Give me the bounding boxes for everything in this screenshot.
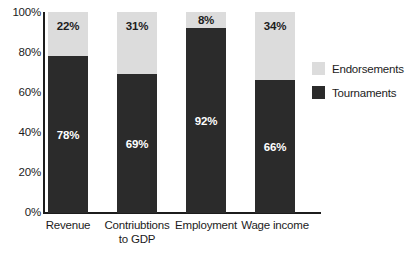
y-tick-label-40: 40%: [1, 127, 41, 138]
bar-stack: 34% 66%: [255, 12, 295, 213]
bar-group-employment[interactable]: 8% 92%: [186, 12, 226, 213]
chart-legend: Endorsements Tournaments: [312, 62, 406, 110]
bar-stack: 22% 78%: [48, 12, 88, 213]
legend-label: Endorsements: [332, 63, 404, 75]
y-tick-label-20: 20%: [1, 167, 41, 178]
plot-area: 22% 78% 31% 69% 8%: [45, 12, 321, 213]
category-label-wage-income: Wage income: [227, 218, 323, 232]
legend-item-endorsements[interactable]: Endorsements: [312, 62, 406, 75]
y-tick-label-60: 60%: [1, 87, 41, 98]
stacked-bar-chart: 100% 80% 60% 40% 20% 0% 22% 78% 31%: [0, 0, 406, 261]
segment-endorsements[interactable]: 31%: [117, 12, 157, 74]
segment-value-label: 8%: [198, 15, 214, 26]
segment-value-label: 92%: [195, 115, 217, 126]
segment-value-label: 31%: [126, 21, 148, 32]
category-label-line: Wage income: [227, 218, 323, 232]
segment-tournaments[interactable]: 66%: [255, 80, 295, 213]
bar-group-contributions-to-gdp[interactable]: 31% 69%: [117, 12, 157, 213]
legend-label: Tournaments: [332, 87, 396, 99]
bar-stack: 8% 92%: [186, 12, 226, 213]
bar-group-wage-income[interactable]: 34% 66%: [255, 12, 295, 213]
legend-swatch-icon: [312, 86, 325, 99]
segment-tournaments[interactable]: 78%: [48, 56, 88, 213]
segment-endorsements[interactable]: 34%: [255, 12, 295, 80]
y-tick-label-0: 0%: [1, 207, 41, 218]
segment-value-label: 66%: [264, 141, 286, 152]
bar-stack: 31% 69%: [117, 12, 157, 213]
segment-endorsements[interactable]: 22%: [48, 12, 88, 56]
y-tick-label-100: 100%: [1, 7, 41, 18]
segment-endorsements[interactable]: 8%: [186, 12, 226, 28]
segment-value-label: 22%: [57, 21, 79, 32]
bar-group-revenue[interactable]: 22% 78%: [48, 12, 88, 213]
category-label-line: to GDP: [89, 232, 185, 246]
y-tick-label-80: 80%: [1, 47, 41, 58]
segment-value-label: 34%: [264, 21, 286, 32]
x-axis-category-labels: Revenue Contriubtions to GDP Employment …: [45, 218, 321, 261]
segment-tournaments[interactable]: 69%: [117, 74, 157, 213]
segment-tournaments[interactable]: 92%: [186, 28, 226, 213]
legend-item-tournaments[interactable]: Tournaments: [312, 86, 406, 99]
legend-swatch-icon: [312, 62, 325, 75]
segment-value-label: 69%: [126, 138, 148, 149]
segment-value-label: 78%: [57, 129, 79, 140]
